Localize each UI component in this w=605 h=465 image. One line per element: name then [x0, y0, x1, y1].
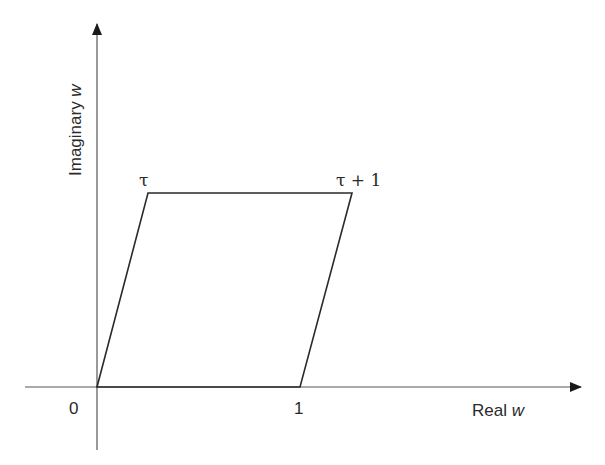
- imaginary-axis-label-var: w: [66, 83, 85, 97]
- real-axis-label-var: w: [512, 401, 526, 420]
- tau-plus-one-label: τ + 1: [336, 170, 381, 190]
- real-axis-label-text: Real: [472, 401, 512, 420]
- diagram-canvas: 0 1 τ τ + 1 Real w Imaginary w: [0, 0, 605, 465]
- imaginary-axis-label: Imaginary w: [66, 83, 85, 176]
- tau-label: τ: [139, 170, 148, 190]
- imaginary-axis-label-text: Imaginary: [66, 97, 85, 176]
- real-axis-label: Real w: [472, 401, 526, 420]
- fundamental-parallelogram: [97, 193, 352, 387]
- one-label: 1: [294, 399, 303, 418]
- origin-label: 0: [69, 399, 78, 418]
